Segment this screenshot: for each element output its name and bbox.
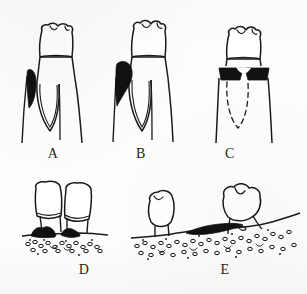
- figure-root: A B C D E: [0, 0, 307, 294]
- panel-label-c: C: [218, 146, 242, 162]
- panel-label-b: B: [129, 146, 153, 162]
- panel-label-a: A: [41, 146, 65, 162]
- panel-label-e: E: [213, 262, 237, 278]
- figure-caption: [0, 285, 307, 294]
- panel-label-d: D: [72, 262, 96, 278]
